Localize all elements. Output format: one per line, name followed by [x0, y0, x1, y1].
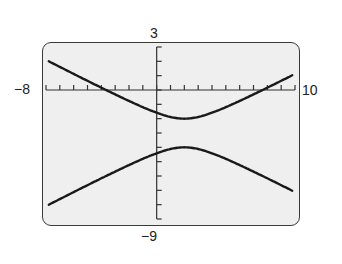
axes: [46, 47, 295, 219]
plot-area: [0, 0, 342, 264]
x-min-label: −8: [14, 82, 30, 96]
x-max-label: 10: [302, 83, 318, 97]
lower-branch-curve: [49, 147, 292, 204]
y-min-label: −9: [141, 229, 157, 243]
curves: [49, 61, 292, 204]
y-max-label: 3: [150, 26, 158, 40]
